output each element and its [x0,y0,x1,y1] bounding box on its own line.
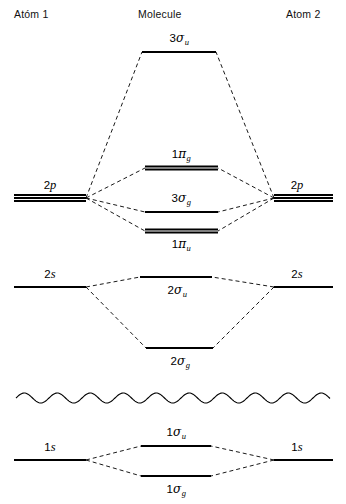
orbital-label-symbol: π [178,237,186,251]
correlation-line-right-2p-to-mo-1pi-u [218,198,274,231]
correlation-line-right-2s-to-mo-2sigma-g [213,287,274,348]
atomic-label-symbol: p [297,178,303,192]
orbital-label-mo-1sigma-g: 1σg [167,482,186,497]
atomic-orbital-label-right-1s: 1s [291,440,302,455]
mo-diagram: Atóm 1 Molecule Atom 2 3σu1πg3σg1πu2σu2σ… [0,0,346,504]
orbital-label-mo-1pi-u: 1πu [172,237,191,252]
correlation-line-left-2p-to-mo-3sigma-g [86,198,145,212]
atomic-orbital-label-right-2s: 2s [291,267,302,282]
orbital-label-subscript: g [187,153,191,163]
energy-level-lines-group [14,52,333,476]
orbital-label-mo-1sigma-u: 1σu [167,425,186,440]
correlation-line-left-2p-to-mo-1pi-g [86,168,145,198]
orbital-label-symbol: π [178,147,186,161]
correlation-line-left-2s-to-mo-2sigma-u [86,277,140,287]
atomic-label-symbol: p [50,178,56,192]
orbital-label-symbol: σ [174,283,182,297]
atomic-label-symbol: s [298,267,303,281]
orbital-label-mo-1pi-g: 1πg [172,147,191,162]
orbital-label-subscript: u [182,431,186,441]
atomic-orbital-label-left-1s: 1s [44,440,55,455]
correlation-line-left-1s-to-mo-1sigma-u [86,446,141,460]
atomic-label-symbol: s [51,267,56,281]
atomic-orbital-label-left-2s: 2s [44,267,55,282]
correlation-line-right-1s-to-mo-1sigma-u [211,446,274,460]
orbital-label-mo-2sigma-g: 2σg [171,354,190,369]
column-header-atom1: Atóm 1 [14,8,48,20]
correlation-line-left-1s-to-mo-1sigma-g [86,460,141,476]
atomic-orbital-label-right-2p: 2p [291,178,304,193]
atomic-orbital-label-left-2p: 2p [44,178,57,193]
orbital-label-subscript: u [183,289,187,299]
orbital-label-symbol: σ [178,191,186,205]
orbital-label-symbol: σ [176,31,184,45]
orbital-label-subscript: g [186,360,190,370]
orbital-label-mo-3sigma-g: 3σg [172,191,191,206]
orbital-label-subscript: g [187,197,191,207]
orbital-label-mo-2sigma-u: 2σu [168,283,187,298]
correlation-line-right-2p-to-mo-3sigma-u [216,52,274,198]
correlation-line-left-2p-to-mo-1pi-u [86,198,145,231]
orbital-label-subscript: g [182,488,186,498]
orbital-label-symbol: σ [173,425,181,439]
correlation-line-left-2s-to-mo-2sigma-g [86,287,146,348]
column-header-molecule: Molecule [138,8,182,20]
correlation-lines-group [86,52,274,476]
atomic-label-symbol: s [298,440,303,454]
atomic-label-symbol: s [51,440,56,454]
column-header-atom2: Atom 2 [286,8,320,20]
energy-break-squiggle-icon [16,393,330,403]
correlation-line-right-2p-to-mo-1pi-g [218,168,274,198]
orbital-label-subscript: u [187,243,191,253]
orbital-label-symbol: σ [173,482,181,496]
orbital-label-subscript: u [185,37,189,47]
correlation-line-right-1s-to-mo-1sigma-g [211,460,274,476]
correlation-line-right-2p-to-mo-3sigma-g [218,198,274,212]
orbital-label-mo-3sigma-u: 3σu [170,31,189,46]
orbital-label-symbol: σ [177,354,185,368]
correlation-line-left-2p-to-mo-3sigma-u [86,52,142,198]
correlation-line-right-2s-to-mo-2sigma-u [212,277,274,287]
